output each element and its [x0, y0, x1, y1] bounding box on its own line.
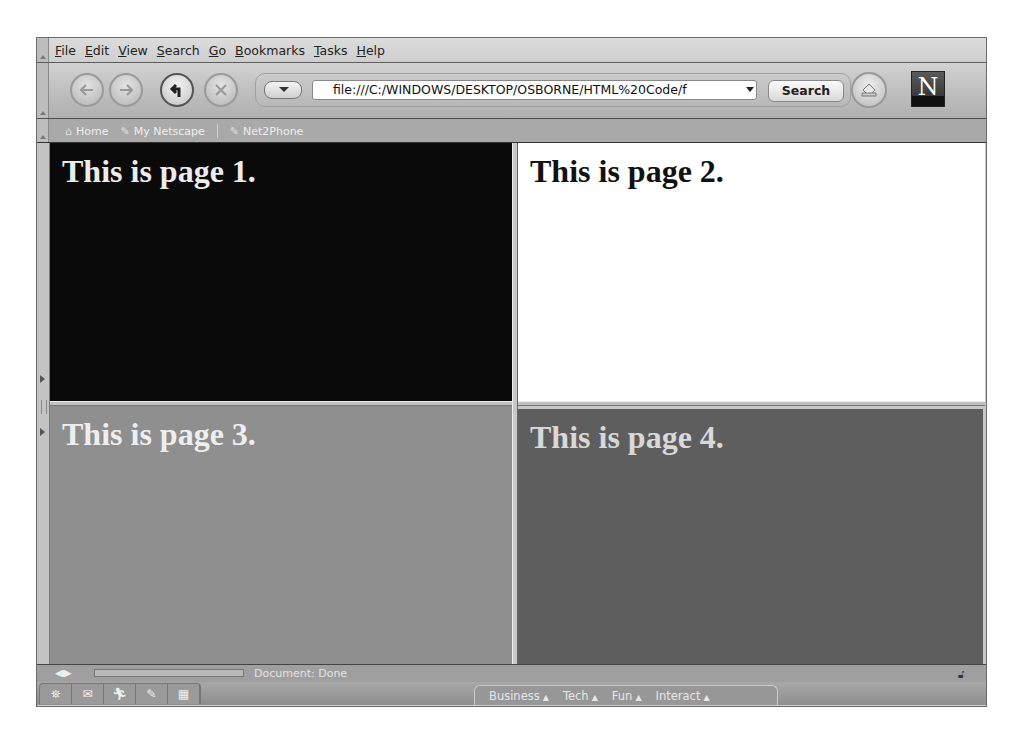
url-input[interactable]: file:///C:/WINDOWS/DESKTOP/OSBORNE/HTML%… — [312, 80, 757, 100]
personalbar-grippy[interactable] — [37, 119, 49, 142]
bookmark-icon: ✎ — [120, 125, 129, 138]
status-bar: ◀▮▶ Document: Done 🔓︎ — [37, 664, 986, 682]
history-dropdown-button[interactable] — [264, 81, 302, 99]
sidebar-splitter[interactable] — [37, 143, 50, 664]
frameset: This is page 1. This is page 2. This is … — [50, 143, 985, 664]
security-lock-icon[interactable]: 🔓︎ — [958, 669, 964, 681]
online-status-icon[interactable]: ◀▮▶ — [55, 668, 71, 678]
url-bar-group: ✎ file:///C:/WINDOWS/DESKTOP/OSBORNE/HTM… — [255, 73, 851, 107]
bookmark-net2phone[interactable]: ✎Net2Phone — [230, 125, 304, 138]
status-text: Document: Done — [254, 667, 347, 680]
personal-toolbar: ⌂Home ✎My Netscape ✎Net2Phone — [37, 119, 986, 143]
navigation-toolbar: ✎ file:///C:/WINDOWS/DESKTOP/OSBORNE/HTM… — [37, 63, 986, 119]
menu-view[interactable]: View — [118, 43, 148, 58]
menu-tasks[interactable]: Tasks — [314, 43, 348, 58]
print-button[interactable] — [851, 72, 887, 108]
navbar-grippy[interactable] — [37, 63, 49, 118]
print-icon — [858, 79, 880, 101]
tab-tech[interactable]: Tech▲ — [563, 689, 598, 703]
menubar-grippy[interactable] — [37, 38, 49, 62]
reload-button[interactable] — [160, 73, 194, 107]
menu-bar: File Edit View Search Go Bookmarks Tasks… — [37, 38, 986, 63]
tab-interact[interactable]: Interact▲ — [656, 689, 710, 703]
tab-fun[interactable]: Fun▲ — [612, 689, 642, 703]
tab-business[interactable]: Business▲ — [489, 689, 549, 703]
menu-help[interactable]: Help — [356, 43, 385, 58]
stop-button[interactable] — [204, 73, 238, 107]
url-dropdown-arrow-icon[interactable] — [746, 87, 754, 92]
navigator-icon[interactable]: ⛯ — [40, 684, 72, 704]
back-arrow-icon — [77, 80, 97, 100]
frame-heading: This is page 3. — [62, 416, 256, 453]
address-book-icon[interactable]: ▦ — [168, 684, 200, 704]
reload-icon — [167, 80, 187, 100]
tab-up-icon: ▲ — [635, 693, 641, 702]
frame-vertical-divider[interactable] — [512, 143, 518, 664]
forward-button[interactable] — [109, 73, 143, 107]
forward-arrow-icon — [116, 80, 136, 100]
bookmark-my-netscape[interactable]: ✎My Netscape — [120, 125, 204, 138]
search-button[interactable]: Search — [768, 80, 844, 102]
component-bar: ⛯ ✉ 🏃︎ ✎ ▦ Business▲ Tech▲ Fun▲ Interact… — [37, 682, 986, 706]
sidebar-open-arrow-icon[interactable] — [40, 375, 45, 383]
frame-page-4: This is page 4. — [518, 409, 983, 664]
sidebar-open-arrow-icon[interactable] — [40, 428, 45, 436]
frame-page-1: This is page 1. — [50, 143, 512, 401]
frame-page-3: This is page 3. — [50, 406, 512, 664]
toolbar-separator — [217, 124, 218, 138]
bookmark-icon: ✎ — [230, 125, 239, 138]
menu-bookmarks[interactable]: Bookmarks — [235, 43, 305, 58]
progress-bar — [94, 669, 244, 677]
composer-icon[interactable]: ✎ — [136, 684, 168, 704]
frame-heading: This is page 1. — [62, 153, 256, 190]
menu-edit[interactable]: Edit — [85, 43, 109, 58]
instant-messenger-icon[interactable]: 🏃︎ — [104, 684, 136, 704]
bookmark-home[interactable]: ⌂Home — [65, 125, 108, 138]
menu-go[interactable]: Go — [209, 43, 226, 58]
mail-icon[interactable]: ✉ — [72, 684, 104, 704]
tab-up-icon: ▲ — [703, 693, 709, 702]
home-icon: ⌂ — [65, 125, 72, 138]
frame-heading: This is page 4. — [530, 419, 724, 456]
tab-up-icon: ▲ — [592, 693, 598, 702]
sidebar-tabs: Business▲ Tech▲ Fun▲ Interact▲ — [474, 685, 778, 705]
menu-file[interactable]: File — [55, 43, 76, 58]
menu-search[interactable]: Search — [157, 43, 200, 58]
sidebar-grip-icon — [41, 400, 47, 414]
browser-window: File Edit View Search Go Bookmarks Tasks… — [36, 37, 987, 707]
tab-up-icon: ▲ — [543, 693, 549, 702]
stop-icon — [211, 80, 231, 100]
component-icons: ⛯ ✉ 🏃︎ ✎ ▦ — [39, 683, 201, 704]
frame-heading: This is page 2. — [530, 153, 724, 190]
frame-page-2: This is page 2. — [518, 143, 985, 404]
netscape-logo[interactable]: N — [911, 71, 945, 107]
back-button[interactable] — [70, 73, 104, 107]
